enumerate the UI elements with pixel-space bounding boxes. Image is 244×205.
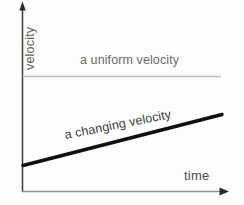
x-axis-arrowhead-icon bbox=[220, 187, 230, 195]
y-axis-arrowhead-icon bbox=[19, 2, 25, 11]
y-axis-label: velocity bbox=[24, 27, 37, 70]
velocity-time-graph-figure: velocity time a uniform velocity a chang… bbox=[0, 0, 244, 205]
x-axis-label: time bbox=[184, 169, 209, 182]
x-axis bbox=[22, 187, 229, 195]
annotation-uniform-velocity: a uniform velocity bbox=[80, 54, 179, 67]
